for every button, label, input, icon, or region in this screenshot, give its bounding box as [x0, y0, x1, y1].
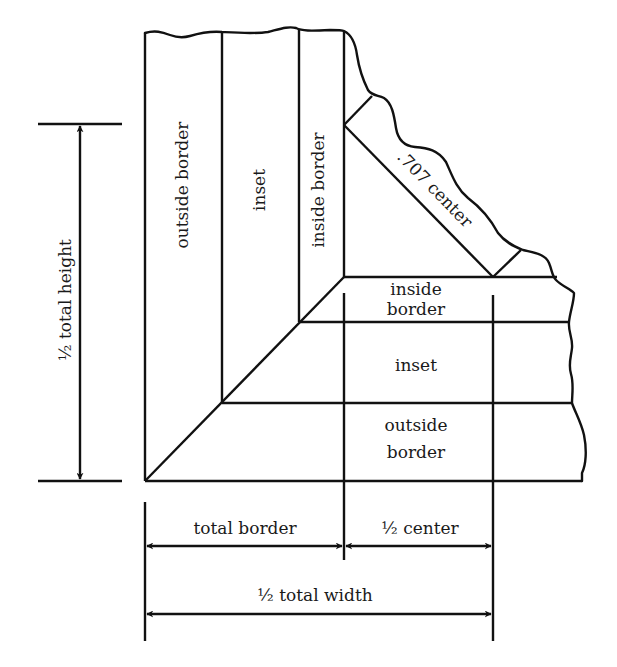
label-inside-border-horizontal-line2: border — [387, 299, 446, 319]
label-outside-border-vertical: outside border — [172, 121, 192, 249]
label-outside-border-horizontal-line1: outside — [384, 415, 447, 435]
miter-diagonal — [145, 277, 344, 481]
label-half-total-width: ½ total width — [257, 585, 372, 605]
mat-corner-diagram: outside border inset inside border insid… — [0, 0, 617, 667]
label-half-center: ½ center — [381, 518, 459, 538]
label-total-border: total border — [193, 518, 297, 538]
label-outside-border-horizontal-line2: border — [387, 442, 446, 462]
label-inset-vertical: inset — [249, 169, 269, 211]
center-diagonal-tick-bottom — [493, 250, 521, 277]
center-diagonal-tick-top — [344, 96, 372, 125]
label-half-total-height: ½ total height — [55, 239, 75, 361]
label-inside-border-vertical: inside border — [308, 132, 328, 248]
label-inside-border-horizontal-line1: inside — [390, 279, 442, 299]
label-inset-horizontal: inset — [395, 355, 437, 375]
